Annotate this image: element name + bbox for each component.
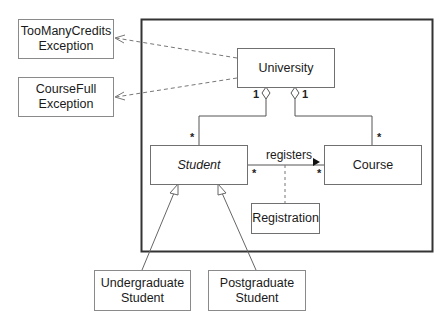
class-label: Course (353, 158, 393, 173)
class-student[interactable]: Student (150, 145, 248, 185)
class-label: University (259, 61, 314, 76)
dependency-too-many-credits (115, 35, 237, 58)
multiplicity-label: * (377, 131, 381, 143)
class-too-many-credits-exception[interactable]: TooManyCredits Exception (18, 19, 114, 59)
class-label: Undergraduate Student (101, 276, 184, 306)
class-registration[interactable]: Registration (251, 203, 320, 234)
multiplicity-label: 1 (302, 88, 308, 100)
class-label: Student (177, 158, 220, 173)
class-course-full-exception[interactable]: CourseFull Exception (18, 77, 114, 117)
hollow-triangle-icon (170, 184, 178, 195)
class-university[interactable]: University (237, 48, 335, 88)
multiplicity-label: * (252, 167, 256, 179)
aggregation-university-student (199, 87, 270, 145)
aggregation-diamond-icon (262, 87, 270, 99)
multiplicity-label: * (190, 131, 194, 143)
multiplicity-label: 1 (253, 88, 259, 100)
class-label: CourseFull Exception (36, 82, 96, 112)
association-label: registers (266, 148, 312, 162)
dependency-course-full (115, 78, 237, 100)
multiplicity-label: * (317, 167, 321, 179)
generalization-undergraduate (142, 184, 178, 270)
class-label: Registration (252, 211, 319, 226)
class-postgraduate-student[interactable]: Postgraduate Student (208, 270, 306, 311)
hollow-triangle-icon (218, 184, 226, 195)
class-undergraduate-student[interactable]: Undergraduate Student (94, 270, 191, 311)
aggregation-diamond-icon (291, 87, 299, 99)
class-label: TooManyCredits Exception (21, 24, 111, 54)
class-course[interactable]: Course (324, 145, 422, 185)
class-label: Postgraduate Student (220, 276, 294, 306)
